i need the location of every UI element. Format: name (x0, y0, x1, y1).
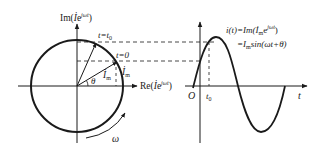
origin-label: O (188, 90, 195, 101)
phasor-sinusoid-diagram: Im(İejωt) t=t0 t=0 İm İm θ Re(İejωt) ω i… (0, 0, 318, 151)
equation-line-2: =Imsin(ωt+θ) (237, 39, 287, 50)
vector-label-outer: İm (121, 66, 130, 78)
rotation-label: ω (112, 133, 119, 144)
equation-line-1: i(t)=Im(İmejωt) (226, 24, 278, 36)
vector-label: İm (102, 69, 111, 81)
angle-label: θ (91, 76, 96, 86)
waveform-plot: i(t)=Im(İmejωt) =Imsin(ωt+θ) O t0 t (185, 22, 307, 143)
t0-axis-label: t0 (206, 91, 212, 102)
rotation-arrow (86, 113, 125, 138)
re-axis-label: Re(İejωt) (140, 80, 172, 92)
phasor-diagram: Im(İejωt) t=t0 t=0 İm İm θ Re(İejωt) ω (18, 12, 216, 144)
t0-label: t=t0 (98, 30, 112, 41)
angle-arc (87, 81, 89, 87)
phasor-vector-t-zero (77, 62, 117, 86)
t-zero-label: t=0 (116, 50, 130, 60)
sine-curve (193, 37, 285, 132)
t-axis-label: t (298, 90, 301, 101)
im-axis-label: Im(İejωt) (60, 12, 92, 24)
